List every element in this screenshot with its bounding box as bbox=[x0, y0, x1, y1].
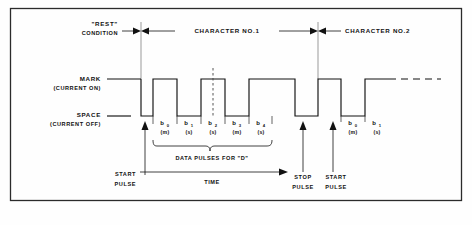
svg-text:b: b bbox=[184, 120, 188, 126]
svg-text:b: b bbox=[208, 120, 212, 126]
svg-text:b: b bbox=[256, 120, 260, 126]
svg-text:(s): (s) bbox=[373, 129, 380, 135]
bit-label-char1-4: b 4 (s) bbox=[256, 120, 266, 135]
stop-pulse-label-line2: PULSE bbox=[292, 184, 313, 190]
svg-text:(s): (s) bbox=[185, 129, 192, 135]
data-pulses-brace bbox=[153, 140, 272, 151]
space-label-line2: (CURRENT OFF) bbox=[50, 121, 101, 127]
stop-pulse-arrow-head bbox=[300, 121, 307, 130]
svg-text:(m): (m) bbox=[233, 129, 242, 135]
start-pulse-1-label-line1: START bbox=[115, 171, 136, 177]
svg-text:(s): (s) bbox=[257, 129, 264, 135]
svg-text:1: 1 bbox=[191, 123, 194, 128]
time-axis-label: TIME bbox=[204, 179, 220, 185]
start-pulse-1-label-line2: PULSE bbox=[115, 181, 136, 187]
timing-diagram: "REST" CONDITION CHARACTER NO.1 CHARACTE… bbox=[0, 0, 472, 225]
space-label-line1: SPACE bbox=[77, 111, 101, 118]
bit-cell-ticks-char2 bbox=[341, 116, 365, 122]
svg-text:b: b bbox=[160, 120, 164, 126]
time-axis-arrow-head bbox=[279, 169, 288, 176]
start-pulse-2-arrow-head bbox=[330, 121, 337, 130]
svg-text:1: 1 bbox=[379, 123, 382, 128]
svg-text:(s): (s) bbox=[209, 129, 216, 135]
bit-label-char1-1: b 1 (s) bbox=[184, 120, 194, 135]
char1-left-arrow-head bbox=[141, 28, 149, 35]
character-2-label: CHARACTER NO.2 bbox=[345, 27, 410, 34]
start-pulse-1-arrow-head bbox=[142, 121, 149, 130]
bit-label-char2-0: b 0 (m) bbox=[348, 120, 358, 135]
bit-label-char1-0: b 0 (m) bbox=[160, 120, 170, 135]
character-1-label: CHARACTER NO.1 bbox=[194, 27, 259, 34]
bit-label-char2-1: b 1 (s) bbox=[372, 120, 382, 135]
start-pulse-2-label-line1: START bbox=[326, 174, 347, 180]
rest-arrow-head bbox=[133, 28, 141, 35]
stop-pulse-label-line1: STOP bbox=[294, 174, 311, 180]
svg-text:0: 0 bbox=[167, 123, 170, 128]
signal-waveform bbox=[141, 79, 389, 116]
char2-left-arrow-head bbox=[318, 28, 326, 35]
svg-text:b: b bbox=[372, 120, 376, 126]
rest-condition-label-line2: CONDITION bbox=[82, 30, 118, 36]
svg-text:(m): (m) bbox=[161, 129, 170, 135]
data-pulses-label: DATA PULSES FOR "D" bbox=[175, 155, 248, 161]
svg-text:4: 4 bbox=[263, 123, 266, 128]
bit-label-char1-3: b 3 (m) bbox=[232, 120, 242, 135]
figure-root: "REST" CONDITION CHARACTER NO.1 CHARACTE… bbox=[0, 0, 472, 225]
svg-text:0: 0 bbox=[355, 123, 358, 128]
svg-text:(m): (m) bbox=[349, 129, 358, 135]
svg-text:3: 3 bbox=[239, 123, 242, 128]
char1-right-arrow-head bbox=[310, 28, 318, 35]
mark-label-line1: MARK bbox=[80, 75, 101, 82]
rest-condition-label-line1: "REST" bbox=[91, 20, 118, 27]
mark-label-line2: (CURRENT ON) bbox=[53, 85, 101, 91]
bit-label-char1-2: b 2 (s) bbox=[208, 120, 218, 135]
svg-text:b: b bbox=[232, 120, 236, 126]
start-pulse-2-label-line2: PULSE bbox=[325, 184, 346, 190]
svg-text:2: 2 bbox=[215, 123, 218, 128]
svg-text:b: b bbox=[348, 120, 352, 126]
bit-cell-ticks-char1 bbox=[153, 116, 272, 124]
